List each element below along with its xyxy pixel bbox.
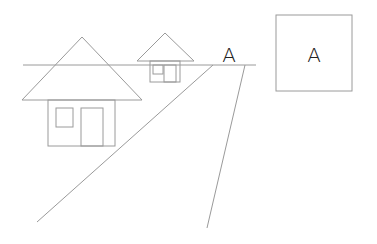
small-house-window xyxy=(153,65,163,74)
label-box-text: A xyxy=(307,43,321,67)
vanishing-point-label: A xyxy=(222,43,236,67)
large-house-roof xyxy=(22,37,142,100)
road-right-edge xyxy=(207,65,245,228)
small-house xyxy=(137,33,194,82)
large-house xyxy=(22,37,142,146)
perspective-drawing: A A xyxy=(0,0,377,244)
large-house-window xyxy=(56,108,73,127)
large-house-door xyxy=(81,108,103,146)
small-house-door xyxy=(164,65,176,82)
road-left-edge xyxy=(37,65,213,222)
small-house-roof xyxy=(137,33,194,61)
